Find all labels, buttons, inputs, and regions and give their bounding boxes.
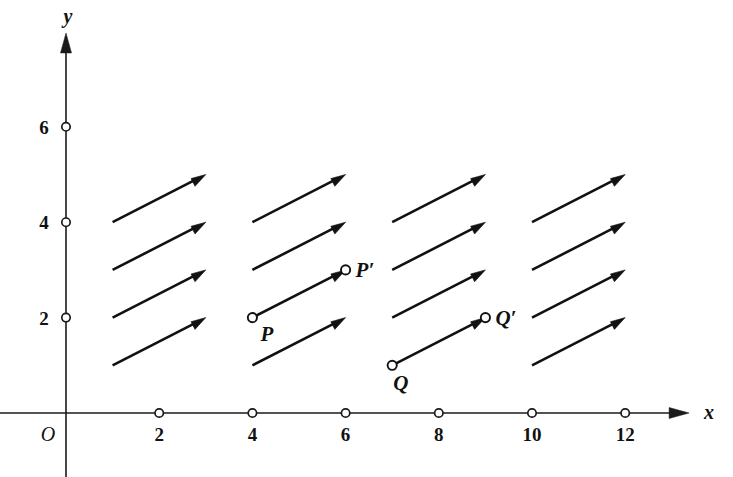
vector-arrow-head-icon (191, 222, 206, 234)
vector-arrow-shaft (392, 228, 475, 270)
point-marker-P (248, 313, 257, 322)
vector-arrow-head-icon (610, 270, 625, 282)
vector-arrow-head-icon (471, 175, 486, 187)
figure-root: x y O 24681012 246 PP′QQ′ (0, 0, 733, 477)
origin-label: O (41, 423, 55, 445)
vector-arrow-shaft (532, 228, 615, 270)
y-tick-marker-6 (62, 123, 70, 131)
x-tick-label-4: 4 (248, 424, 258, 445)
point-label-P: P (259, 322, 273, 346)
vector-arrow-head-icon (610, 318, 625, 330)
x-tick-marker-12 (621, 409, 629, 417)
vector-arrow-head-icon (471, 222, 486, 234)
x-tick-label-12: 12 (616, 424, 635, 445)
y-axis-label: y (62, 5, 73, 28)
vector-arrow-shaft (532, 275, 615, 317)
vector-arrow-shaft (532, 323, 615, 365)
vector-arrow-head-icon (331, 222, 346, 234)
vector-arrow-shaft (113, 228, 196, 270)
vector-arrow-shaft (392, 275, 475, 317)
vector-arrow-shaft (252, 180, 335, 222)
x-tick-marker-4 (248, 409, 256, 417)
x-tick-label-6: 6 (341, 424, 351, 445)
vector-arrow-head-icon (191, 318, 206, 330)
point-marker-Q (388, 361, 397, 370)
x-tick-label-8: 8 (434, 424, 444, 445)
vector-arrow-head-icon (191, 270, 206, 282)
y-tick-label-6: 6 (39, 117, 49, 138)
vector-arrow-shaft (113, 275, 196, 317)
vector-arrow-shaft (113, 180, 196, 222)
x-axis-ticks: 24681012 (154, 409, 634, 445)
x-axis-arrow-icon (669, 408, 689, 419)
x-tick-label-2: 2 (154, 424, 164, 445)
point-marker-Qp (481, 313, 490, 322)
x-tick-marker-6 (341, 409, 349, 417)
vector-arrow-head-icon (191, 175, 206, 187)
vector-field-plot: x y O 24681012 246 PP′QQ′ (0, 0, 733, 477)
vector-arrow-shaft (252, 228, 335, 270)
x-axis-label: x (703, 401, 714, 423)
vector-arrow-shaft (113, 323, 196, 365)
axes-group: x y O (0, 5, 714, 477)
x-tick-marker-8 (435, 409, 443, 417)
point-label-Q: Q (393, 371, 408, 395)
x-tick-marker-10 (528, 409, 536, 417)
point-label-Pp: P′ (355, 258, 375, 282)
vector-arrow-head-icon (610, 175, 625, 187)
y-tick-marker-4 (62, 218, 70, 226)
y-tick-marker-2 (62, 313, 70, 321)
y-tick-label-2: 2 (39, 308, 49, 329)
y-tick-label-4: 4 (39, 212, 49, 233)
vector-arrow-shaft (252, 275, 335, 317)
vector-arrow-head-icon (331, 318, 346, 330)
point-label-Qp: Q′ (495, 306, 516, 330)
x-tick-marker-2 (155, 409, 163, 417)
vector-arrow-shaft (392, 180, 475, 222)
x-tick-label-10: 10 (523, 424, 542, 445)
vector-arrow-shaft (392, 323, 475, 365)
vector-arrow-shaft (532, 180, 615, 222)
vector-arrow-head-icon (331, 175, 346, 187)
vector-arrow-head-icon (471, 270, 486, 282)
point-marker-Pp (341, 265, 350, 274)
y-axis-arrow-icon (61, 33, 72, 53)
vector-arrow-head-icon (610, 222, 625, 234)
